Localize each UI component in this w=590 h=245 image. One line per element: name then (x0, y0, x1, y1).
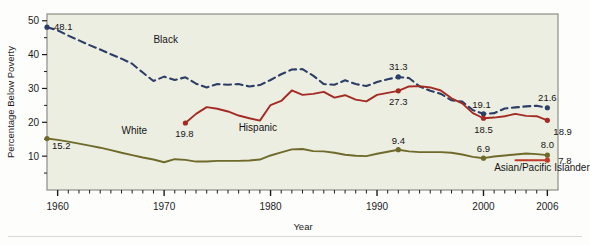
chart-figure: 1020304050 196019701980199020002006 48.1… (0, 0, 590, 245)
y-axis-title: Percentage Below Poverty (5, 46, 16, 158)
y-tick-label: 40 (28, 49, 40, 60)
data-value-label: 31.3 (389, 61, 408, 72)
data-point-marker (481, 116, 486, 121)
y-tick-label: 20 (28, 117, 40, 128)
y-axis-ticks: 1020304050 (28, 15, 47, 173)
data-value-label: 18.9 (553, 126, 572, 137)
data-point-marker (183, 120, 188, 125)
y-tick-label: 50 (28, 15, 40, 26)
data-value-label: 18.5 (474, 124, 493, 135)
data-value-label: 6.9 (477, 143, 490, 154)
poverty-line-chart: 1020304050 196019701980199020002006 48.1… (0, 0, 590, 245)
bottom-divider (8, 236, 582, 237)
data-point-marker (481, 156, 486, 161)
data-value-label: 21.6 (538, 92, 557, 103)
series-label-asian-pacific-islander: Asian/Pacific Islander (494, 162, 590, 173)
series-label-black: Black (153, 34, 178, 45)
x-tick-label: 1960 (47, 201, 70, 212)
x-tick-label: 1990 (366, 201, 389, 212)
y-tick-label: 30 (28, 83, 40, 94)
x-tick-label: 2000 (472, 201, 495, 212)
data-point-marker (44, 25, 49, 30)
data-point-marker (545, 118, 550, 123)
data-value-label: 15.2 (52, 140, 71, 151)
x-axis-title: Year (293, 221, 312, 232)
x-axis-ticks: 196019701980199020002006 (47, 201, 559, 212)
data-value-label: 19.8 (175, 128, 194, 139)
series-label-hispanic: Hispanic (239, 122, 277, 133)
x-tick-label: 2006 (536, 201, 559, 212)
data-value-label: 48.1 (54, 21, 73, 32)
data-point-marker (396, 147, 401, 152)
x-tick-label: 1980 (259, 201, 282, 212)
data-point-marker (545, 153, 550, 158)
data-point-marker (396, 88, 401, 93)
y-tick-label: 10 (28, 151, 40, 162)
series-label-white: White (122, 125, 148, 136)
x-tick-label: 1970 (153, 201, 176, 212)
data-value-label: 8.0 (541, 139, 554, 150)
data-point-marker (44, 136, 49, 141)
data-value-label: 9.4 (392, 135, 405, 146)
data-point-marker (396, 74, 401, 79)
x-axis-minor-ticks (58, 190, 548, 196)
data-point-marker (545, 105, 550, 110)
data-value-label: 19.1 (472, 99, 491, 110)
data-value-label: 27.3 (389, 96, 408, 107)
